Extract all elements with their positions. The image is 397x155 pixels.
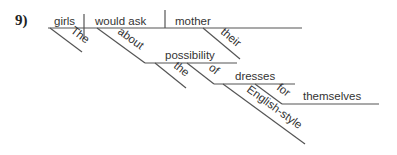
- verb-word: would ask: [94, 15, 146, 27]
- subject-modifier-word: The: [69, 24, 92, 46]
- prep-1-object-word: possibility: [165, 49, 215, 61]
- prep-2-object-word: dresses: [235, 70, 276, 82]
- prep-3-object-word: themselves: [303, 90, 361, 102]
- sentence-diagram: 9) girls would ask mother The their abou…: [0, 0, 397, 155]
- object-modifier-word: their: [219, 25, 244, 49]
- subject-word: girls: [54, 15, 75, 27]
- object-word: mother: [175, 15, 211, 27]
- problem-number: 9): [15, 12, 28, 29]
- prep-1-object-modifier-word: the: [172, 59, 192, 78]
- prep-1-word: about: [116, 25, 147, 52]
